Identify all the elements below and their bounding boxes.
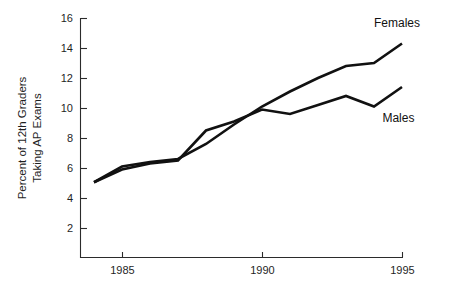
y-tick-label-8: 8 (67, 132, 73, 144)
y-axis-title: Percent of 12th Graders Taking AP Exams (16, 76, 43, 199)
x-tick-label-1990: 1990 (250, 264, 274, 276)
series-labels: Females Males (374, 16, 420, 125)
y-axis-title-line2: Taking AP Exams (31, 93, 43, 183)
series-label-males: Males (382, 111, 414, 125)
axes-group (81, 18, 404, 258)
y-tick-label-10: 10 (61, 102, 73, 114)
series-label-females: Females (374, 16, 420, 30)
y-tick-label-16: 16 (61, 12, 73, 24)
series-line-females (94, 44, 402, 183)
y-tick-label-4: 4 (67, 192, 73, 204)
chart-container: 16 14 12 10 8 6 4 2 1985 1990 1995 Perce… (0, 0, 451, 290)
y-axis-title-line1: Percent of 12th Graders (16, 76, 28, 199)
x-tick-marks (123, 252, 403, 258)
series-line-males (94, 87, 402, 182)
line-chart: 16 14 12 10 8 6 4 2 1985 1990 1995 Perce… (0, 0, 451, 290)
y-tick-labels: 16 14 12 10 8 6 4 2 (61, 12, 73, 234)
y-tick-marks (81, 19, 88, 229)
x-tick-labels: 1985 1990 1995 (110, 264, 414, 276)
y-tick-label-12: 12 (61, 72, 73, 84)
x-tick-label-1995: 1995 (390, 264, 414, 276)
y-tick-label-2: 2 (67, 222, 73, 234)
x-tick-label-1985: 1985 (110, 264, 134, 276)
y-tick-label-14: 14 (61, 42, 73, 54)
y-tick-label-6: 6 (67, 162, 73, 174)
series-group (94, 44, 402, 183)
